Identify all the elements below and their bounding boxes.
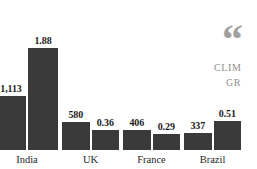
bar-column-india-total[interactable]: 1,113 [0, 0, 26, 150]
bar-group-india: 1,113 1.88 [0, 0, 58, 150]
bar-column-uk-per-capita[interactable]: 0.36 [92, 0, 120, 150]
bar-value-label: 0.36 [97, 118, 114, 130]
bar-column-france-total[interactable]: 406 [123, 0, 151, 150]
bar-value-label: 337 [190, 121, 205, 133]
bars-row: 580 0.36 [62, 0, 119, 150]
bars-row: 406 0.29 [123, 0, 180, 150]
bar-rect[interactable] [184, 133, 212, 150]
category-label-india: India [0, 152, 58, 168]
pull-quote: “ CLIM GR [188, 24, 257, 90]
pull-quote-line-1: CLIM [214, 60, 257, 75]
bar-column-uk-total[interactable]: 580 [62, 0, 90, 150]
bar-rect[interactable] [28, 48, 58, 150]
bar-value-label: 580 [68, 110, 83, 122]
bar-rect[interactable] [0, 96, 26, 150]
bar-column-india-per-capita[interactable]: 1.88 [28, 0, 58, 150]
bar-rect[interactable] [62, 122, 90, 150]
category-label-france: France [123, 152, 180, 168]
bar-group-uk: 580 0.36 [62, 0, 119, 150]
pull-quote-line-2: GR [226, 75, 257, 90]
bar-rect[interactable] [92, 130, 120, 150]
bar-group-france: 406 0.29 [123, 0, 180, 150]
bar-rect[interactable] [123, 130, 151, 150]
bars-row: 1,113 1.88 [0, 0, 58, 150]
bar-value-label: 0.29 [158, 122, 175, 134]
bar-chart: 1,113 1.88 580 0.36 [0, 0, 257, 169]
quote-mark-icon: “ [222, 24, 257, 54]
bar-column-france-per-capita[interactable]: 0.29 [153, 0, 181, 150]
bar-rect[interactable] [214, 121, 242, 150]
bar-value-label: 0.51 [219, 109, 236, 121]
bar-value-label: 1.88 [34, 36, 51, 48]
category-axis: India UK France Brazil [0, 150, 257, 169]
category-label-brazil: Brazil [184, 152, 241, 168]
bar-rect[interactable] [153, 134, 181, 150]
bar-value-label: 406 [129, 118, 144, 130]
bar-value-label: 1,113 [0, 84, 21, 96]
category-label-uk: UK [62, 152, 119, 168]
